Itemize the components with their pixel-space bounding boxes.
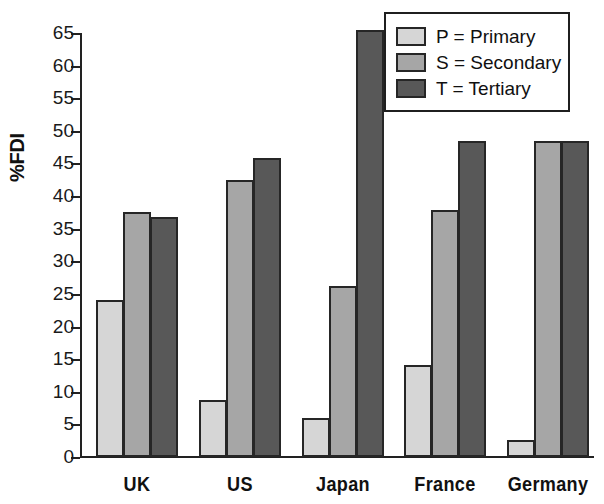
bar: [356, 30, 384, 457]
bar: [534, 141, 562, 457]
y-tick-label: 30: [53, 251, 74, 270]
y-axis-title: %FDI: [6, 133, 29, 182]
y-tick-label: 50: [53, 121, 74, 140]
legend-label: T = Tertiary: [436, 79, 531, 98]
x-axis-group-label: UK: [124, 472, 151, 496]
legend-rows: P = PrimaryS = SecondaryT = Tertiary: [396, 23, 558, 101]
bar: [123, 212, 151, 457]
bar: [226, 180, 254, 457]
bar: [150, 217, 178, 457]
x-axis-group-label: France: [415, 472, 476, 496]
legend-label: P = Primary: [436, 27, 535, 46]
x-axis-group-label: Germany: [508, 472, 589, 496]
legend-item: T = Tertiary: [396, 75, 558, 101]
y-tick-label: 20: [53, 317, 74, 336]
legend-swatch: [396, 79, 426, 98]
y-tick-label: 15: [53, 349, 74, 368]
bar: [329, 286, 357, 457]
y-tick-label: 0: [63, 447, 74, 466]
bar: [458, 141, 486, 457]
legend-swatch: [396, 27, 426, 46]
y-tick-label: 10: [53, 382, 74, 401]
bar: [507, 440, 535, 457]
bar: [431, 210, 459, 457]
bar-chart-figure: %FDI 05101520253035404550556065 UKUSJapa…: [0, 0, 604, 504]
y-tick-label: 5: [63, 414, 74, 433]
legend-item: P = Primary: [396, 23, 558, 49]
y-tick-label: 65: [53, 23, 74, 42]
legend-item: S = Secondary: [396, 49, 558, 75]
bar: [253, 158, 281, 457]
x-axis-group-label: Japan: [316, 472, 370, 496]
legend-label: S = Secondary: [436, 53, 561, 72]
legend-swatch: [396, 53, 426, 72]
y-tick-label: 55: [53, 88, 74, 107]
y-tick-label: 25: [53, 284, 74, 303]
bar: [561, 141, 589, 457]
chart-legend: P = PrimaryS = SecondaryT = Tertiary: [384, 12, 570, 112]
bar: [199, 400, 227, 457]
bar: [302, 418, 330, 457]
y-tick-label: 35: [53, 219, 74, 238]
x-axis-group-label: US: [227, 472, 253, 496]
y-tick-label: 40: [53, 186, 74, 205]
bar: [404, 365, 432, 457]
y-tick-label: 45: [53, 154, 74, 173]
bar: [96, 300, 124, 457]
y-tick-label: 60: [53, 56, 74, 75]
